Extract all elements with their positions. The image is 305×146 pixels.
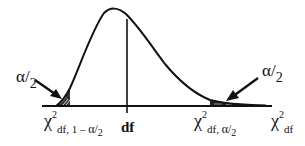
axis-label: χ2df (271, 112, 293, 134)
superscript-2: 2 (52, 109, 57, 120)
chi-symbol: χ (271, 111, 279, 131)
chi-symbol: χ (194, 111, 202, 131)
right-tail-area-label: α/2 (262, 62, 283, 79)
density-curve (56, 9, 266, 106)
chi-symbol: χ (44, 111, 52, 131)
right-arrow-head-icon (226, 90, 239, 101)
superscript-2: 2 (279, 109, 284, 120)
axis-subscript: df (284, 123, 293, 135)
df-label: df (121, 120, 134, 135)
left-tail-area-label: α/2 (16, 68, 37, 85)
fraction-denominator: 2 (276, 70, 283, 85)
subscript-prefix: df, (207, 123, 222, 135)
fraction-slash: / (271, 61, 276, 80)
fraction-slash: / (25, 67, 30, 86)
superscript-2: 2 (202, 109, 207, 120)
alpha-symbol: α (262, 61, 271, 80)
subscript-prefix: df, 1 – (57, 123, 88, 135)
fraction-denominator: 2 (30, 76, 37, 91)
right-critical-value-label: χ2df, α/2 (194, 112, 236, 134)
critical-subscript: df, 1 – α/2 (57, 123, 103, 135)
subscript-denominator: 2 (231, 127, 236, 138)
alpha-symbol: α (16, 67, 25, 86)
subscript-denominator: 2 (98, 127, 103, 138)
left-critical-value-label: χ2df, 1 – α/2 (44, 112, 103, 134)
critical-subscript: df, α/2 (207, 123, 236, 135)
